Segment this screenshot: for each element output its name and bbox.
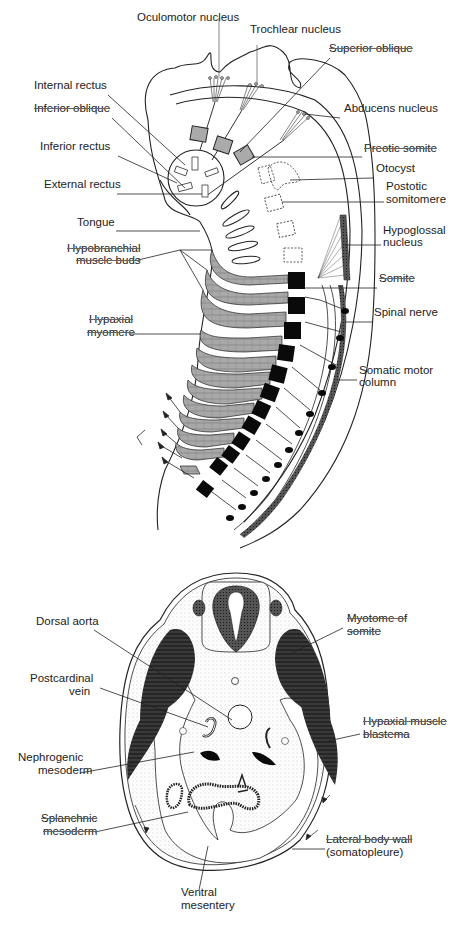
- label-somite: Somite: [379, 272, 415, 284]
- dorsal-aorta: [228, 705, 252, 729]
- label-postcardinal2: vein: [69, 685, 90, 697]
- label-myotome2: somite: [347, 625, 381, 637]
- label-lateral-wall1: Lateral body wall: [326, 833, 412, 845]
- label-hypaxial-myomere2: myomere: [87, 326, 135, 338]
- label-oculomotor: Oculomotor nucleus: [137, 11, 239, 23]
- label-hypobranchial2: muscle buds: [76, 254, 141, 266]
- label-hypoglossal1: Hypoglossal: [383, 224, 446, 236]
- label-ventral1: Ventral: [181, 886, 217, 898]
- label-ventral2: mesentery: [181, 899, 235, 911]
- label-nephrogenic2: mesoderm: [38, 764, 92, 776]
- label-myotome1: Myotome of: [347, 612, 407, 624]
- preotic-somitomeres: [190, 126, 255, 165]
- label-nephrogenic1: Nephrogenic: [18, 751, 83, 763]
- label-preotic: Preotic somite: [364, 142, 437, 154]
- label-internal-rectus: Internal rectus: [34, 79, 107, 91]
- label-dorsal-aorta: Dorsal aorta: [36, 615, 99, 627]
- label-hypaxial-blastema1: Hypaxial muscle: [363, 715, 447, 727]
- label-postotic1: Postotic: [386, 180, 427, 192]
- label-external-rectus: External rectus: [44, 178, 121, 190]
- label-sup-oblique: Superior oblique: [329, 42, 413, 54]
- hypoglossal-nucleus: [340, 215, 350, 280]
- label-inferior-oblique: Inferior oblique: [34, 102, 110, 114]
- label-hypaxial-myomere1: Hypaxial: [89, 313, 133, 325]
- label-tongue: Tongue: [77, 216, 115, 228]
- label-hypobranchial1: Hypobranchial: [67, 242, 141, 254]
- label-somatic-motor1: Somatic motor: [359, 364, 433, 376]
- label-hypaxial-blastema2: blastema: [363, 728, 410, 740]
- label-trochlear: Trochlear nucleus: [250, 23, 341, 35]
- label-somatic-motor2: column: [359, 376, 396, 388]
- label-lateral-wall2: (somatopleure): [326, 846, 403, 858]
- label-postcardinal1: Postcardinal: [30, 672, 93, 684]
- label-otocyst: Otocyst: [376, 162, 415, 174]
- label-abducens: Abducens nucleus: [344, 102, 438, 114]
- myomeres: [176, 250, 288, 474]
- label-inferior-rectus: Inferior rectus: [40, 140, 110, 152]
- transverse-section: [120, 573, 338, 870]
- label-splanchnic2: mesoderm: [43, 825, 97, 837]
- label-hypoglossal2: nucleus: [383, 236, 423, 248]
- label-splanchnic1: Splanchnic: [41, 812, 97, 824]
- label-spinal-nerve: Spinal nerve: [374, 306, 438, 318]
- label-postotic2: somitomere: [386, 193, 446, 205]
